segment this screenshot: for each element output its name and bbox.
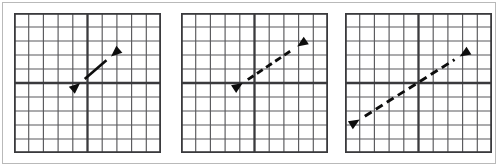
arrowhead-start-c (348, 119, 360, 129)
vector-arrow-b (231, 37, 309, 93)
grid-panel-b (181, 13, 328, 153)
grid-svg-c (345, 13, 492, 153)
arrowhead-start-a (69, 83, 80, 94)
grid-panel-c (345, 13, 492, 153)
grid-svg-b (181, 13, 328, 153)
grid-axis-lines-b (181, 13, 328, 153)
grid-axis-lines-c (345, 13, 492, 153)
grid-svg-a (14, 13, 161, 153)
grid-panel-a (14, 13, 161, 153)
grid-axis-lines-a (14, 13, 161, 153)
vector-arrow-a (69, 46, 123, 94)
arrowhead-start-b (231, 83, 243, 93)
figure-container (0, 0, 498, 166)
vector-arrow-c (348, 47, 471, 130)
